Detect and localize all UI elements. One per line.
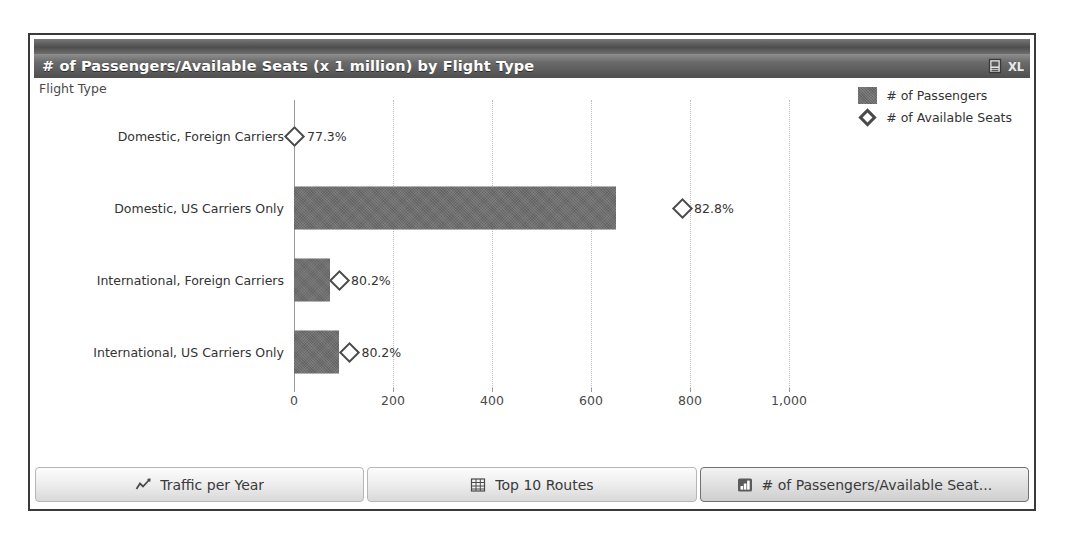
- category-label: Domestic, Foreign Carriers: [34, 129, 284, 144]
- x-tick-label: 1,000: [771, 393, 807, 408]
- report-icon[interactable]: [987, 58, 1003, 74]
- chart-row: International, Foreign Carriers80.2%: [34, 244, 1030, 316]
- x-tick-mark: [492, 388, 493, 392]
- tab-2[interactable]: Top 10 Routes: [367, 467, 696, 502]
- x-tick-label: 0: [290, 393, 298, 408]
- data-label: 80.2%: [351, 273, 391, 288]
- x-tick-label: 600: [579, 393, 603, 408]
- x-tick-label: 200: [381, 393, 405, 408]
- tab-label: Top 10 Routes: [495, 477, 593, 493]
- y-axis-title: Flight Type: [39, 81, 107, 96]
- bar-chart-icon: [737, 477, 753, 493]
- x-tick-mark: [294, 388, 295, 392]
- bar-passengers[interactable]: [294, 259, 330, 302]
- plot-canvas: Domestic, Foreign Carriers77.3%Domestic,…: [34, 100, 1030, 459]
- svg-text:XL: XL: [1008, 60, 1024, 74]
- titlebar-actions: XL: [987, 58, 1024, 74]
- category-label: Domestic, US Carriers Only: [34, 201, 284, 216]
- category-label: International, US Carriers Only: [34, 345, 284, 360]
- tab-label: # of Passengers/Available Seat...: [762, 477, 993, 493]
- page-title: # of Passengers/Available Seats (x 1 mil…: [42, 58, 987, 74]
- chart-row: Domestic, Foreign Carriers77.3%: [34, 100, 1030, 172]
- bar-passengers[interactable]: [294, 187, 616, 230]
- window-inner: # of Passengers/Available Seats (x 1 mil…: [34, 39, 1030, 505]
- tab-bar: Traffic per YearTop 10 Routes# of Passen…: [34, 463, 1030, 505]
- data-label: 80.2%: [361, 345, 401, 360]
- chart-plot-area: Flight Type # of Passengers # of Availab…: [34, 78, 1030, 459]
- table-grid-icon: [470, 477, 486, 493]
- marker-available-seats[interactable]: [328, 269, 349, 290]
- chart-row: International, US Carriers Only80.2%: [34, 316, 1030, 388]
- x-tick-mark: [789, 388, 790, 392]
- category-label: International, Foreign Carriers: [34, 273, 284, 288]
- marker-available-seats[interactable]: [339, 341, 360, 362]
- tab-1[interactable]: Traffic per Year: [35, 467, 364, 502]
- x-axis: 02004006008001,000: [34, 388, 1030, 412]
- marker-available-seats[interactable]: [284, 125, 305, 146]
- tab-label: Traffic per Year: [160, 477, 264, 493]
- x-tick-mark: [591, 388, 592, 392]
- excel-export-icon[interactable]: XL: [1008, 58, 1024, 74]
- window-top-band: [34, 39, 1030, 54]
- x-tick-label: 800: [678, 393, 702, 408]
- chart-row: Domestic, US Carriers Only82.8%: [34, 172, 1030, 244]
- data-label: 77.3%: [307, 129, 347, 144]
- x-tick-mark: [393, 388, 394, 392]
- line-chart-icon: [135, 477, 151, 493]
- tab-3[interactable]: # of Passengers/Available Seat...: [700, 467, 1029, 502]
- marker-available-seats[interactable]: [671, 197, 692, 218]
- window-titlebar: # of Passengers/Available Seats (x 1 mil…: [34, 54, 1030, 78]
- x-tick-label: 400: [480, 393, 504, 408]
- data-label: 82.8%: [694, 201, 734, 216]
- chart-window: # of Passengers/Available Seats (x 1 mil…: [28, 33, 1036, 511]
- bar-passengers[interactable]: [294, 331, 339, 374]
- x-tick-mark: [690, 388, 691, 392]
